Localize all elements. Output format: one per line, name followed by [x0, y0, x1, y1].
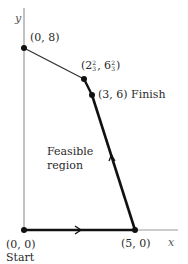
denominator: 3 — [111, 66, 115, 72]
point-label-5-0: (5, 0) — [121, 238, 151, 250]
vertex-2-6 — [81, 76, 87, 82]
vertex-3-6 — [89, 92, 95, 98]
feasible-region-label: Feasible region — [47, 145, 93, 173]
vertex-0-0 — [21, 227, 27, 233]
coordinate: (3, 6) — [98, 88, 128, 101]
label-part: ) — [116, 59, 120, 72]
label-part: , 6 — [97, 59, 111, 72]
path-edge-right — [92, 95, 135, 230]
point-label-2-6: (223, 623) — [81, 60, 120, 72]
y-axis-label: y — [15, 13, 21, 25]
vertex-0-8 — [21, 45, 27, 51]
region-label-line2: region — [47, 159, 93, 173]
coordinate: (0, 0) — [6, 238, 36, 251]
x-axis-label: x — [168, 237, 174, 249]
region-label-line1: Feasible — [47, 145, 93, 159]
boundary-edge-top — [24, 48, 84, 79]
fraction: 23 — [92, 60, 96, 72]
finish-label: Finish — [131, 88, 165, 101]
label-part: (2 — [81, 59, 92, 72]
point-label-0-8: (0, 8) — [30, 32, 60, 44]
denominator: 3 — [92, 66, 96, 72]
fraction: 23 — [111, 60, 115, 72]
start-label: Start — [6, 251, 36, 264]
point-label-0-0: (0, 0) Start — [6, 238, 36, 264]
vertex-5-0 — [132, 227, 138, 233]
point-label-3-6: (3, 6) Finish — [98, 89, 166, 101]
feasible-region-diagram — [0, 0, 188, 264]
